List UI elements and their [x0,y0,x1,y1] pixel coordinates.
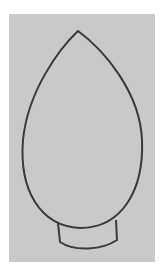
bulb-outline [23,31,143,228]
bulb-base-outline [58,220,117,249]
light-bulb-drawing [0,0,162,278]
